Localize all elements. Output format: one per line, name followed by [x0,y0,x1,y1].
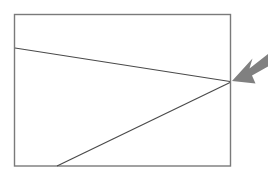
diagram-canvas: Line diagram with pointer arrow [0,0,268,178]
upper-line [15,48,230,82]
pointer-arrow-shape [232,53,268,84]
pointer-arrow [232,53,268,84]
lower-line [57,83,230,167]
diagram-svg [0,0,268,178]
rectangle-frame [15,15,231,167]
